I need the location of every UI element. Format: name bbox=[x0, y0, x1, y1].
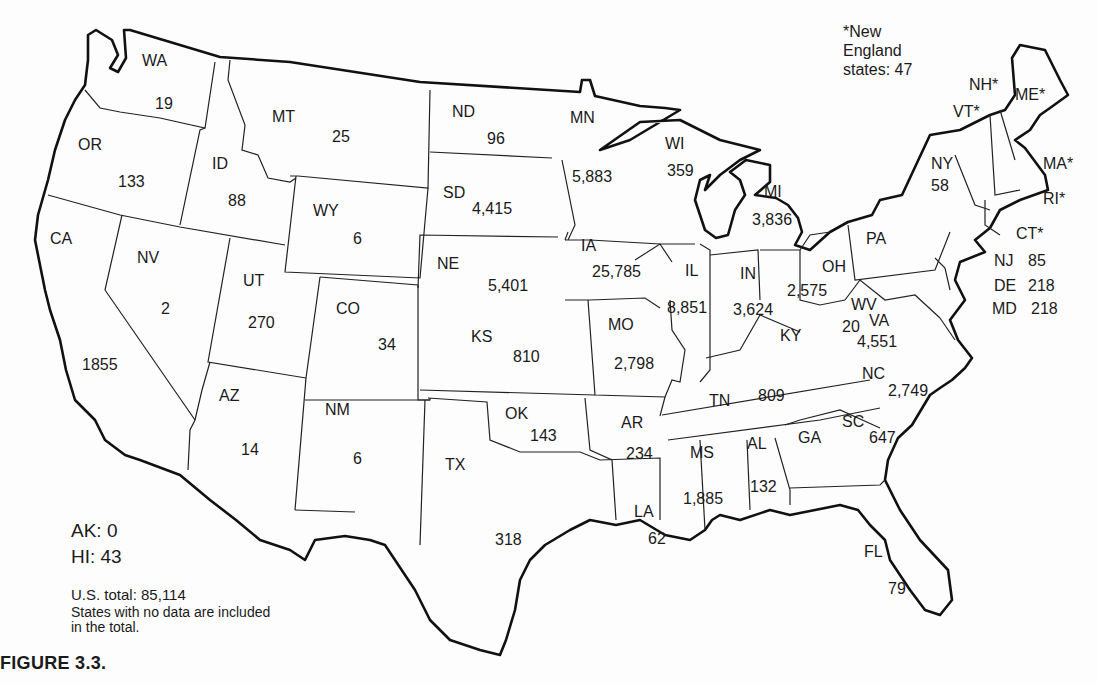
state-value-tn: 809 bbox=[758, 387, 785, 405]
total-note-line-1: States with no data are included bbox=[71, 605, 270, 620]
state-label-md: MD bbox=[992, 300, 1017, 318]
state-label-nc: NC bbox=[862, 365, 885, 383]
state-value-mo: 2,798 bbox=[614, 355, 654, 373]
figure-caption: FIGURE 3.3. bbox=[0, 653, 106, 674]
state-label-il: IL bbox=[685, 262, 698, 280]
state-label-nh: NH* bbox=[969, 76, 998, 94]
state-value-wy: 6 bbox=[353, 230, 362, 248]
note-line-1: *New bbox=[843, 22, 912, 41]
state-label-vt: VT* bbox=[953, 103, 980, 121]
state-value-ks: 810 bbox=[513, 348, 540, 366]
hawaii-value: HI: 43 bbox=[71, 546, 122, 568]
state-value-co: 34 bbox=[378, 336, 396, 354]
state-label-co: CO bbox=[336, 300, 360, 318]
state-value-mi: 3,836 bbox=[752, 211, 792, 229]
state-label-al: AL bbox=[747, 435, 767, 453]
state-value-fl: 79 bbox=[888, 580, 906, 598]
state-value-id: 88 bbox=[228, 192, 246, 210]
total-note-line-2: in the total. bbox=[71, 620, 140, 635]
state-value-wa: 19 bbox=[155, 95, 173, 113]
state-label-or: OR bbox=[78, 136, 102, 154]
state-label-ne: NE bbox=[437, 255, 459, 273]
state-label-tx: TX bbox=[445, 456, 465, 474]
state-value-ca: 1855 bbox=[82, 356, 118, 374]
state-value-nj: 85 bbox=[1028, 252, 1046, 270]
state-label-ga: GA bbox=[798, 429, 821, 447]
state-label-mo: MO bbox=[608, 316, 634, 334]
state-label-wy: WY bbox=[313, 202, 339, 220]
state-value-mn: 5,883 bbox=[572, 168, 612, 186]
state-value-ia: 25,785 bbox=[592, 263, 641, 281]
state-value-ut: 270 bbox=[248, 314, 275, 332]
state-label-pa: PA bbox=[866, 230, 886, 248]
state-label-oh: OH bbox=[822, 258, 846, 276]
state-value-wv: 20 bbox=[842, 318, 860, 336]
state-value-ar: 234 bbox=[626, 445, 653, 463]
state-label-ny: NY bbox=[931, 155, 953, 173]
state-value-ny: 58 bbox=[931, 177, 949, 195]
state-label-la: LA bbox=[634, 503, 654, 521]
state-value-al: 132 bbox=[750, 478, 777, 496]
state-label-ri: RI* bbox=[1043, 190, 1065, 208]
state-value-ne: 5,401 bbox=[488, 277, 528, 295]
state-label-nv: NV bbox=[137, 249, 159, 267]
state-value-sd: 4,415 bbox=[472, 200, 512, 218]
state-label-fl-text: FL bbox=[864, 543, 883, 561]
state-label-nm: NM bbox=[325, 401, 350, 419]
state-value-or: 133 bbox=[118, 173, 145, 191]
state-label-ca: CA bbox=[50, 230, 72, 248]
state-value-nm: 6 bbox=[353, 450, 362, 468]
state-label-ms: MS bbox=[690, 444, 714, 462]
state-label-ut: UT bbox=[243, 272, 264, 290]
state-label-ct: CT* bbox=[1016, 225, 1044, 243]
state-label-sd: SD bbox=[443, 184, 465, 202]
state-value-il: 8,851 bbox=[667, 299, 707, 317]
state-value-oh: 2,575 bbox=[787, 282, 827, 300]
state-label-mt: MT bbox=[272, 108, 295, 126]
state-label-id: ID bbox=[212, 155, 228, 173]
state-label-ma: MA* bbox=[1043, 155, 1073, 173]
state-value-nv: 2 bbox=[161, 300, 170, 318]
state-value-nc: 2,749 bbox=[888, 382, 928, 400]
state-value-tx: 318 bbox=[495, 531, 522, 549]
state-label-tn: TN bbox=[709, 392, 730, 410]
state-label-mi: MI bbox=[764, 183, 782, 201]
state-value-az: 14 bbox=[241, 441, 259, 459]
state-value-va: 4,551 bbox=[857, 333, 897, 351]
state-label-va: VA bbox=[869, 312, 889, 330]
state-label-wi: WI bbox=[665, 135, 685, 153]
state-label-mn: MN bbox=[570, 109, 595, 127]
state-value-mt: 25 bbox=[332, 128, 350, 146]
state-value-de: 218 bbox=[1028, 277, 1055, 295]
state-label-ks: KS bbox=[471, 328, 492, 346]
state-value-md: 218 bbox=[1031, 300, 1058, 318]
state-label-de: DE bbox=[994, 277, 1016, 295]
state-value-sc: 647 bbox=[869, 429, 896, 447]
note-line-3: states: 47 bbox=[843, 60, 912, 79]
state-value-ms: 1,885 bbox=[683, 490, 723, 508]
state-value-la: 62 bbox=[648, 530, 666, 548]
state-value-wi: 359 bbox=[667, 162, 694, 180]
state-label-wv: WV bbox=[851, 296, 877, 314]
state-label-nj: NJ bbox=[994, 252, 1014, 270]
note-line-2: England bbox=[843, 41, 912, 60]
state-label-ok: OK bbox=[505, 405, 528, 423]
new-england-note: *New England states: 47 bbox=[843, 22, 912, 79]
state-label-ia: IA bbox=[581, 237, 596, 255]
state-label-me: ME* bbox=[1015, 86, 1045, 104]
state-label-nd: ND bbox=[452, 103, 475, 121]
alaska-value: AK: 0 bbox=[71, 520, 117, 542]
state-label-ar: AR bbox=[621, 414, 643, 432]
state-label-az: AZ bbox=[219, 387, 239, 405]
state-label-in: IN bbox=[740, 265, 756, 283]
us-total: U.S. total: 85,114 bbox=[71, 585, 186, 604]
state-value-in: 3,624 bbox=[733, 301, 773, 319]
state-label-sc: SC bbox=[842, 413, 864, 431]
state-value-ok: 143 bbox=[530, 427, 557, 445]
state-label-ky: KY bbox=[780, 327, 801, 345]
state-value-nd: 96 bbox=[487, 130, 505, 148]
state-label-wa: WA bbox=[142, 52, 167, 70]
